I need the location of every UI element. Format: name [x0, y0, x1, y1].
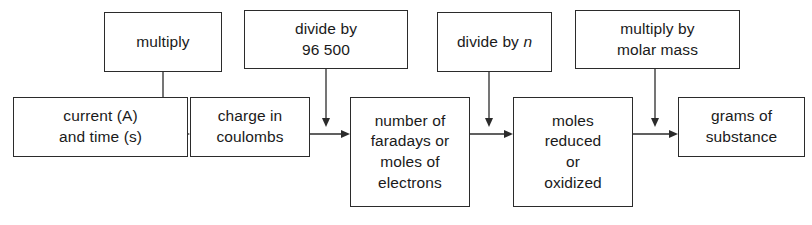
node-multiply-text: multiply [136, 33, 189, 50]
node-grams-of-substance: grams of substance [678, 97, 805, 157]
node-number-of-faradays-label: number of faradays or moles of electrons [367, 111, 454, 193]
node-moles-reduced-or-oxidized: moles reduced or oxidized [513, 97, 633, 207]
node-multiply: multiply [104, 12, 222, 72]
node-multiply-by-molar-mass-label: multiply by molar mass [613, 19, 702, 60]
node-multiply-label: multiply [132, 32, 193, 53]
node-current-and-time-label: current (A) and time (s) [55, 106, 146, 147]
node-divide-by-n-text: divide by [457, 33, 523, 50]
edge-divide96-down [322, 69, 330, 127]
edge-faradays-to-moles [470, 130, 513, 138]
node-grams-of-substance-label: grams of substance [702, 106, 782, 147]
node-multiply-by-molar-mass-text: multiply by molar mass [617, 20, 698, 58]
edge-dividen-down [485, 72, 493, 127]
node-multiply-by-molar-mass: multiply by molar mass [575, 10, 740, 69]
node-divide-by-n-label: divide by n [453, 32, 536, 53]
node-moles-reduced-or-oxidized-label: moles reduced or oxidized [540, 111, 606, 193]
node-current-and-time: current (A) and time (s) [13, 97, 188, 157]
node-divide-by-96500: divide by 96 500 [244, 10, 408, 69]
node-charge-in-coulombs: charge in coulombs [190, 97, 310, 157]
edge-charge-to-faradays [310, 130, 350, 138]
edge-molarmass-down [651, 69, 659, 127]
edge-moles-to-grams [633, 130, 678, 138]
node-divide-by-96500-text: divide by 96 500 [295, 20, 357, 58]
node-divide-by-96500-label: divide by 96 500 [291, 19, 361, 60]
node-divide-by-n-italic: n [523, 33, 532, 50]
flowchart-canvas: current (A) and time (s) charge in coulo… [0, 0, 812, 225]
node-divide-by-n: divide by n [437, 12, 552, 72]
node-number-of-faradays: number of faradays or moles of electrons [350, 97, 470, 207]
node-charge-in-coulombs-label: charge in coulombs [212, 106, 287, 147]
